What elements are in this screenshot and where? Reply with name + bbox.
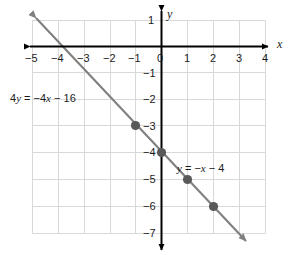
- x-tick-label--3: −3: [77, 53, 90, 64]
- equation-label-left: 4y = −4x − 16: [10, 93, 76, 104]
- y-tick-label--5: −5: [143, 174, 156, 185]
- y-tick-label--7: −7: [143, 228, 156, 239]
- x-tick-label--5: −5: [25, 53, 38, 64]
- x-tick-label-4: 4: [262, 53, 268, 64]
- y-axis-label: y: [167, 8, 172, 20]
- y-tick-label--2: −2: [143, 94, 156, 105]
- x-tick-label-3: 3: [236, 53, 242, 64]
- x-tick-label-2: 2: [210, 53, 216, 64]
- x-tick-label-1: 1: [184, 53, 190, 64]
- y-tick-label--6: −6: [143, 201, 156, 212]
- data-point: [157, 148, 166, 157]
- data-point: [209, 202, 218, 211]
- eq-right-mid: = −: [182, 162, 201, 174]
- x-tick-label--4: −4: [51, 53, 64, 64]
- x-axis-label: x: [277, 38, 282, 50]
- eq-left-mid: = −4: [21, 92, 46, 104]
- x-tick-label--1: −1: [128, 53, 141, 64]
- y-tick-label--4: −4: [143, 147, 156, 158]
- coordinate-graph: −5 −4 −3 −2 −1 0 1 2 3 4 1 −1 −2 −3 −4 −…: [0, 0, 291, 255]
- y-tick-label--1: −1: [143, 68, 156, 79]
- data-point: [131, 121, 140, 130]
- y-tick-label-1: 1: [148, 15, 154, 26]
- y-tick-label--3: −3: [143, 121, 156, 132]
- eq-right-tail: − 4: [206, 162, 225, 174]
- equation-label-right: y = −x − 4: [177, 163, 224, 174]
- x-tick-label--2: −2: [103, 53, 116, 64]
- data-point: [183, 175, 192, 184]
- x-tick-label-0: 0: [157, 53, 163, 64]
- eq-left-tail: − 16: [51, 92, 76, 104]
